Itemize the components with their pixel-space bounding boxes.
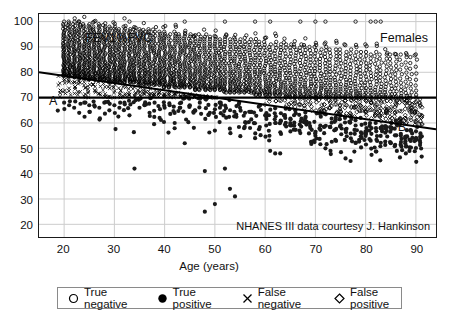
y-axis-title: FEV1%FVC bbox=[85, 31, 152, 45]
x-tick-60: 60 bbox=[259, 243, 272, 255]
x-tick-40: 40 bbox=[158, 243, 171, 255]
x-axis-title: Age (years) bbox=[0, 260, 458, 272]
y-tick-40: 40 bbox=[20, 168, 33, 180]
y-tick-30: 30 bbox=[20, 194, 33, 206]
cross-x-icon bbox=[242, 293, 253, 304]
x-tick-20: 20 bbox=[57, 243, 70, 255]
figure-root: 1009080706050403020 FEV1%FVC Females A B… bbox=[0, 0, 458, 316]
y-tick-20: 20 bbox=[20, 219, 33, 231]
y-tick-70: 70 bbox=[20, 91, 33, 103]
line-b-label: B bbox=[398, 120, 406, 134]
x-tick-70: 70 bbox=[309, 243, 322, 255]
legend-item-filled-circle: True positive bbox=[157, 286, 220, 310]
series-true-positive bbox=[56, 96, 424, 214]
legend-label: True negative bbox=[84, 286, 135, 310]
x-tick-80: 80 bbox=[360, 243, 373, 255]
y-tick-60: 60 bbox=[20, 117, 33, 129]
filled-circle-icon bbox=[157, 293, 168, 304]
plot-area: FEV1%FVC Females A B NHANES III data cou… bbox=[38, 13, 437, 238]
legend-label: False negative bbox=[258, 286, 312, 310]
legend-label: False positive bbox=[350, 286, 401, 310]
legend-label: True positive bbox=[173, 286, 220, 310]
open-circle-icon bbox=[68, 293, 79, 304]
source-note: NHANES III data courtesy J. Hankinson bbox=[236, 220, 430, 232]
legend-item-open-diamond: False positive bbox=[334, 286, 401, 310]
x-tick-50: 50 bbox=[208, 243, 221, 255]
group-label: Females bbox=[380, 31, 428, 45]
open-diamond-icon bbox=[334, 293, 345, 304]
legend-item-open-circle: True negative bbox=[68, 286, 135, 310]
legend-item-cross-x: False negative bbox=[242, 286, 312, 310]
y-tick-90: 90 bbox=[20, 40, 33, 52]
y-tick-50: 50 bbox=[20, 143, 33, 155]
y-tick-80: 80 bbox=[20, 66, 33, 78]
scatter-plot-canvas bbox=[39, 14, 436, 237]
y-tick-100: 100 bbox=[14, 15, 33, 27]
line-a-label: A bbox=[49, 94, 57, 108]
chart-legend: True negativeTrue positiveFalse negative… bbox=[57, 287, 402, 309]
x-tick-90: 90 bbox=[410, 243, 423, 255]
x-tick-30: 30 bbox=[107, 243, 120, 255]
x-axis-title-text: Age (years) bbox=[179, 260, 238, 272]
